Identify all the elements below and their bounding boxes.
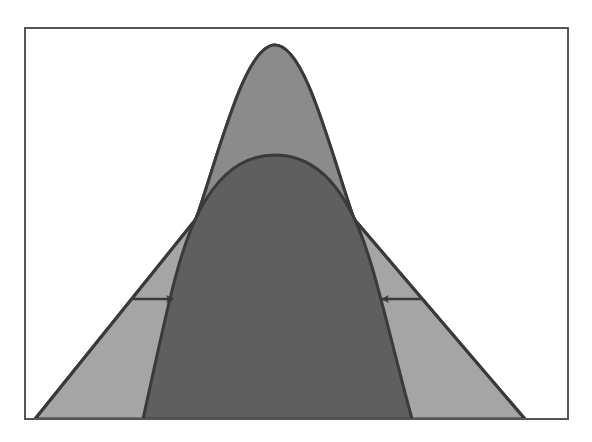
- diagram-canvas: [0, 0, 592, 442]
